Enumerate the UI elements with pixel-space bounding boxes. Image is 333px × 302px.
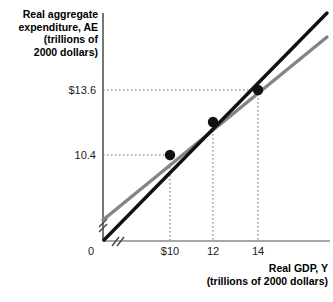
y-axis-title: Real aggregateexpenditure, AE(trillions … — [6, 8, 98, 58]
y-axis-title-line4: 2000 dollars) — [34, 46, 98, 58]
y-axis-title-line2: expenditure, AE — [18, 21, 98, 33]
y-axis-tick-label-13-6: $13.6 — [38, 84, 96, 96]
y-axis-title-line1: Real aggregate — [23, 8, 98, 20]
data-point-10 — [165, 150, 175, 160]
x-axis-tick-label-12: 12 — [191, 245, 235, 257]
origin-label: 0 — [81, 245, 101, 257]
x-axis-tick-label-10: $10 — [148, 245, 192, 257]
x-axis-tick-label-14: 14 — [236, 245, 280, 257]
aggregate-expenditure-chart: Real aggregateexpenditure, AE(trillions … — [0, 0, 333, 302]
data-point-equilibrium — [208, 117, 218, 127]
x-axis-title-line2: (trillions of 2000 dollars) — [207, 275, 328, 287]
data-point-markers — [165, 85, 263, 160]
x-axis-title-line1: Real GDP, Y — [269, 262, 328, 274]
y-axis-title-line3: (trillions of — [44, 33, 98, 45]
y-axis-tick-label-10-4: 10.4 — [38, 149, 96, 161]
data-point-14 — [253, 85, 263, 95]
x-axis-title: Real GDP, Y(trillions of 2000 dollars) — [113, 262, 328, 287]
